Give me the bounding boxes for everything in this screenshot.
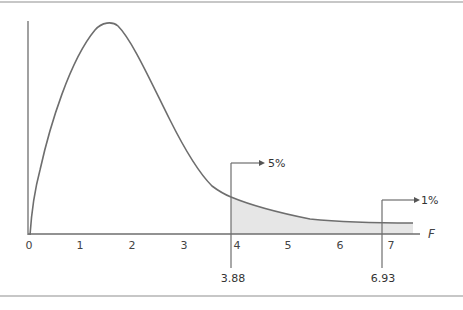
critical-value-2: 6.93 [371,272,396,285]
x-tick-label: 5 [285,239,292,252]
critical-value-1: 3.88 [221,272,246,285]
arrow-head-icon [414,197,420,203]
x-tick-label: 1 [77,239,84,252]
x-tick-label: 0 [26,239,33,252]
x-tick-label: 6 [337,239,344,252]
x-tick-label: 4 [234,239,241,252]
pct-label-5: 5% [268,157,285,170]
x-tick-label: 7 [388,239,395,252]
rejection-region [231,197,413,234]
density-curve [30,23,413,235]
arrow-head-icon [259,160,265,166]
f-distribution-chart: 0 1 2 3 4 5 6 7 F 5% 1% 3.88 6.93 [0,0,463,310]
x-tick-label: 3 [181,239,188,252]
x-axis-label: F [428,227,436,241]
pct-label-1: 1% [421,194,438,207]
x-tick-label: 2 [129,239,136,252]
